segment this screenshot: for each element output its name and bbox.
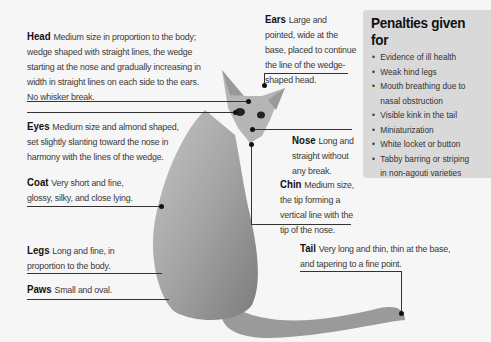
chin-pointer-dot — [249, 142, 254, 147]
penalty-item: White locket or button — [372, 137, 481, 152]
tail-pointer-line — [300, 271, 401, 272]
legs-pointer-line — [27, 273, 162, 274]
label-legs: LegsLong and fine, in proportion to the … — [27, 243, 137, 273]
chin-pointer-vertical — [251, 144, 252, 224]
term-tail: Tail — [300, 242, 316, 254]
label-paws: PawsSmall and oval. — [27, 282, 147, 297]
term-ears: Ears — [265, 13, 286, 25]
coat-pointer-dot — [159, 204, 164, 209]
label-eyes: EyesMedium size and almond shaped, set s… — [27, 119, 188, 164]
penalty-item: Tabby barring or striping in non-agouti … — [372, 152, 472, 181]
nose-pointer-line — [252, 129, 352, 130]
desc-paws: Small and oval. — [54, 284, 112, 295]
penalty-item: Weak hind legs — [372, 65, 481, 80]
desc-head: Medium size in proportion to the body; w… — [27, 31, 201, 102]
term-eyes: Eyes — [27, 120, 50, 132]
penalty-item: Mouth breathing due to nasal obstruction — [372, 79, 468, 108]
coat-pointer-line — [27, 206, 161, 207]
penalties-list: Evidence of ill health Weak hind legs Mo… — [363, 50, 491, 181]
nose-pointer-dot — [250, 127, 255, 132]
eyes-pointer-dot — [233, 110, 238, 115]
label-nose: NoseLong and straight without any break. — [292, 133, 356, 178]
penalties-title: Penalties given for — [371, 14, 479, 48]
eyes-pointer-line — [27, 112, 235, 113]
penalty-item: Evidence of ill health — [372, 50, 481, 65]
label-tail: TailVery long and thin, thin at the base… — [300, 241, 466, 271]
paws-pointer-line — [27, 299, 169, 300]
term-head: Head — [27, 30, 51, 42]
label-head: HeadMedium size in proportion to the bod… — [27, 29, 211, 104]
penalty-item: Miniaturization — [372, 123, 481, 138]
label-coat: CoatVery short and fine, glossy, silky, … — [27, 175, 147, 205]
desc-tail: Very long and thin, thin at the base, an… — [300, 243, 450, 269]
term-paws: Paws — [27, 283, 52, 295]
label-chin: ChinMedium size, the tip forming a verti… — [280, 177, 363, 237]
term-coat: Coat — [27, 176, 48, 188]
head-pointer-dot — [246, 99, 251, 104]
penalty-item: Visible kink in the tail — [372, 108, 481, 123]
tail-pointer-dot — [399, 311, 404, 316]
label-ears: EarsLarge and pointed, wide at the base,… — [265, 12, 357, 87]
term-legs: Legs — [27, 244, 50, 256]
term-chin: Chin — [280, 178, 301, 190]
term-nose: Nose — [292, 134, 316, 146]
penalties-panel: Penalties given for Evidence of ill heal… — [363, 10, 491, 178]
tail-pointer-vertical — [401, 271, 402, 313]
